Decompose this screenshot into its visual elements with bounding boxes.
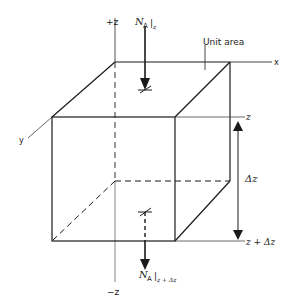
svg-text:z + Δz: z + Δz bbox=[156, 276, 177, 283]
label-minus-z: −z bbox=[107, 287, 120, 297]
control-volume-diagram: +z −z x y Unit area N A | z N A | z + Δz… bbox=[0, 0, 289, 299]
label-x: x bbox=[274, 58, 279, 67]
svg-text:A: A bbox=[143, 22, 148, 30]
label-flux-bottom: N A | z + Δz bbox=[138, 269, 177, 283]
label-unit-area: Unit area bbox=[203, 37, 244, 47]
label-flux-top: N A | z bbox=[134, 16, 157, 30]
flux-arrow-top bbox=[138, 26, 152, 93]
svg-text:z: z bbox=[152, 23, 157, 30]
label-level-z-plus-dz: z + Δz bbox=[245, 237, 276, 247]
label-plus-z: +z bbox=[106, 17, 119, 27]
label-delta-z: Δz bbox=[244, 173, 258, 184]
delta-z-arrow bbox=[233, 121, 243, 240]
y-axis bbox=[28, 117, 52, 138]
svg-text:A: A bbox=[147, 275, 152, 283]
label-level-z: z bbox=[245, 112, 251, 122]
label-y: y bbox=[19, 136, 24, 145]
flux-arrow-bottom bbox=[138, 208, 152, 270]
cube bbox=[52, 62, 230, 241]
